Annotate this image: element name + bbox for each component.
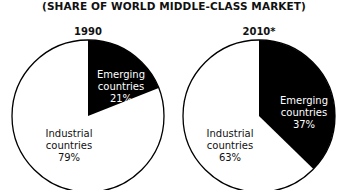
pie-2010: Emerging countries 37% Industrial countr… [183, 40, 335, 190]
pie-1990-emerging-label-1: Emerging [97, 69, 145, 80]
pie-1990-industrial-label-2: countries [46, 140, 92, 151]
pie-1990: Emerging countries 21% Industrial countr… [12, 40, 164, 190]
pie-1990-industrial-value: 79% [58, 152, 80, 163]
pie-2010-emerging-label-1: Emerging [280, 95, 328, 106]
pie-2010-industrial-value: 63% [219, 152, 241, 163]
pie-1990-emerging-value: 21% [110, 93, 132, 104]
pie-1990-industrial-label-1: Industrial [46, 128, 93, 139]
pie-2010-emerging-label-2: countries [281, 107, 327, 118]
pie-charts: Emerging countries 21% Industrial countr… [0, 0, 348, 190]
pie-2010-industrial-label-2: countries [207, 140, 253, 151]
pie-2010-emerging-value: 37% [293, 119, 315, 130]
pie-1990-emerging-label-2: countries [98, 81, 144, 92]
pie-2010-industrial-label-1: Industrial [207, 128, 254, 139]
